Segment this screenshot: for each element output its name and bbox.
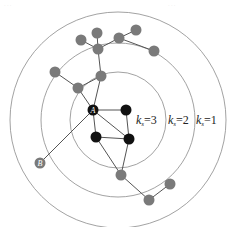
node-n7: [50, 67, 61, 78]
shell-labels: ks=3ks=2ks=1: [136, 113, 217, 128]
shell-rings: [10, 12, 226, 227]
node-n16: [144, 195, 155, 206]
edge: [119, 38, 154, 51]
node-n12: [131, 25, 142, 36]
shell-label-k1: ks=1: [196, 113, 217, 128]
edge: [121, 139, 129, 175]
node-n13: [149, 46, 160, 57]
node-label-A: A: [90, 106, 96, 115]
node-n8: [93, 44, 104, 55]
node-n11: [114, 33, 125, 44]
node-n15: [116, 170, 127, 181]
shell-ring-k1: [10, 12, 226, 227]
node-n17: [165, 179, 176, 190]
edge: [96, 137, 121, 175]
node-label-B: B: [38, 159, 43, 168]
shell-label-k2: ks=2: [168, 113, 189, 128]
node-n3: [91, 132, 102, 143]
node-n10: [92, 28, 103, 39]
shell-label-k3: ks=3: [136, 113, 157, 128]
node-n2: [121, 105, 132, 116]
node-n4: [124, 134, 135, 145]
edge: [121, 175, 149, 200]
k-shell-diagram: AB ks=3ks=2ks=1: [0, 0, 235, 227]
node-n5: [73, 83, 84, 94]
node-n6: [96, 71, 107, 82]
node-n9: [76, 35, 87, 46]
